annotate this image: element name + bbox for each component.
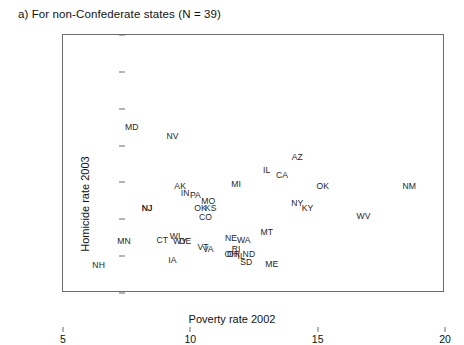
x-tick-label: 15: [312, 333, 324, 345]
data-point-label: AZ: [292, 152, 303, 161]
data-point-label: MI: [231, 180, 241, 189]
x-tick-label: 20: [439, 333, 451, 345]
x-tick-label: 5: [60, 333, 66, 345]
y-tick-mark: [119, 182, 125, 183]
x-tick-mark: [317, 327, 318, 332]
y-tick-mark: [119, 145, 125, 146]
data-point-label: PA: [190, 191, 201, 200]
data-point-label: CA: [276, 171, 288, 180]
y-tick-mark: [119, 256, 125, 257]
y-tick-mark: [119, 293, 125, 294]
data-point-label: NH: [92, 261, 105, 270]
x-tick-mark: [63, 327, 64, 332]
data-point-label: NE: [225, 233, 237, 242]
x-tick-label: 10: [184, 333, 196, 345]
y-tick-mark: [119, 71, 125, 72]
x-axis-label: Poverty rate 2002: [0, 313, 464, 325]
data-point-label: MN: [117, 237, 131, 246]
y-tick-mark: [119, 219, 125, 220]
y-tick-mark: [119, 35, 125, 36]
data-point-label: OH: [225, 250, 238, 259]
data-point-label: NV: [166, 132, 178, 141]
x-tick-mark: [190, 327, 191, 332]
data-point-label: VA: [203, 244, 214, 253]
data-point-label: SD: [240, 257, 252, 266]
data-point-label: KY: [302, 204, 314, 213]
y-axis-label: Homicide rate 2003: [79, 124, 91, 284]
y-tick-mark: [119, 108, 125, 109]
data-point-label: WY: [173, 237, 187, 246]
data-point-label: MT: [260, 228, 273, 237]
data-point-label: NM: [403, 182, 417, 191]
x-tick-mark: [445, 327, 446, 332]
data-point-label: MD: [125, 123, 139, 132]
data-point-label: IL: [263, 165, 270, 174]
data-point-label: ME: [265, 259, 278, 268]
data-point-label: NJ: [142, 204, 153, 213]
data-point-label: CO: [199, 213, 212, 222]
page-title: a) For non-Confederate states (N = 39): [18, 8, 221, 20]
data-point-label: WV: [356, 211, 370, 220]
plot-area: 02468101214 5101520 MDNVAZILCAMIOKNMAKIN…: [62, 34, 444, 292]
data-point-label: CT: [156, 235, 168, 244]
data-point-label: OK: [316, 182, 329, 191]
data-point-label: IN: [181, 189, 190, 198]
data-point-label: IA: [168, 256, 176, 265]
